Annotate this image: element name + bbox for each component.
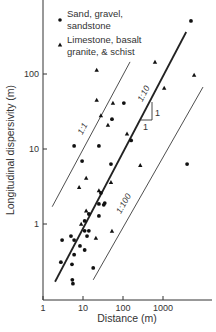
reference-line-label: 1:10 [135,84,152,104]
reference-line-1-to-1 [52,62,130,207]
data-point-circle [97,144,101,148]
legend-label-sand-2: sandstone [67,20,111,31]
data-point-circle [91,266,95,270]
data-point-circle [87,212,91,216]
slope-run-label: 1 [143,122,148,132]
reference-line-label: 1:100 [114,192,133,216]
reference-lines: 1:11:101:100 [52,32,203,282]
data-point-triangle [138,163,142,167]
data-point-triangle [162,86,166,90]
data-point-circle [59,260,63,264]
reference-line-1-to-10 [55,32,186,282]
data-point-triangle [79,222,83,226]
data-point-circle [72,253,76,257]
data-point-circle [72,144,76,148]
legend-triangle-marker-icon [58,43,62,47]
y-ticks: 110100 [24,69,47,229]
y-tick-label: 10 [29,144,39,154]
data-points [59,19,196,286]
legend-label-sand: Sand, gravel, [67,8,123,19]
data-point-triangle [111,101,115,105]
data-point-triangle [97,188,101,192]
data-point-circle [97,214,101,218]
data-point-circle [97,202,101,206]
data-point-circle [72,238,76,242]
reference-line-label: 1:1 [75,121,90,136]
data-point-triangle [153,60,157,64]
data-point-circle [60,238,64,242]
data-point-circle [83,219,87,223]
data-point-circle [70,262,74,266]
dispersivity-chart: 1101001000 110100 Distance (m) Longitudi… [0,0,216,332]
data-point-circle [185,162,189,166]
y-axis-title: Longitudinal dispersivity (m) [4,85,16,215]
data-point-triangle [94,236,98,240]
x-ticks: 1101001000 [40,296,173,313]
data-point-circle [85,234,89,238]
y-tick-label: 1 [34,219,39,229]
data-point-circle [129,139,133,143]
data-point-triangle [106,123,110,127]
data-point-circle [109,162,113,166]
data-point-circle [102,203,106,207]
data-point-circle [69,234,73,238]
data-point-triangle [110,229,114,233]
legend: Sand, gravel, sandstone Limestone, basal… [58,8,142,57]
data-point-circle [70,278,74,282]
data-point-triangle [192,73,196,77]
data-point-triangle [84,176,88,180]
data-point-circle [78,244,82,248]
data-point-triangle [109,180,113,184]
data-point-triangle [94,68,98,72]
data-point-triangle [94,98,98,102]
data-point-triangle [77,185,81,189]
data-point-circle [189,19,193,23]
y-tick-label: 100 [24,69,39,79]
data-point-circle [83,248,87,252]
slope-triangle: 1 1 [141,102,160,132]
data-point-circle [71,282,75,286]
data-point-circle [83,229,87,233]
legend-label-limestone-2: granite, & schist [67,46,135,57]
slope-triangle-shape [141,102,152,120]
data-point-circle [122,101,126,105]
data-point-circle [87,229,91,233]
legend-circle-marker-icon [58,18,62,22]
data-point-triangle [84,209,88,213]
x-tick-label: 10 [78,303,88,313]
x-axis-title: Distance (m) [97,312,157,324]
data-point-circle [110,117,114,121]
x-tick-label: 1 [40,303,45,313]
legend-label-limestone: Limestone, basalt [67,34,142,45]
data-point-triangle [125,131,129,135]
data-point-circle [80,159,84,163]
slope-rise-label: 1 [155,108,160,118]
